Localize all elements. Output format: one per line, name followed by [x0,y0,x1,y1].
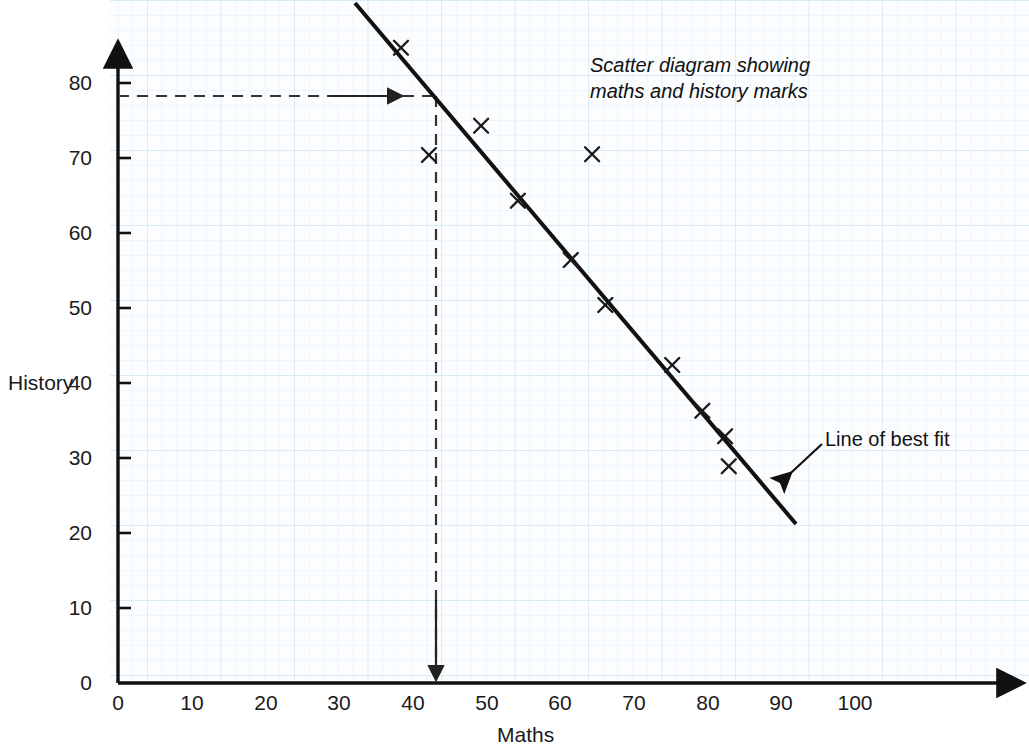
x-tick-label-20: 20 [236,691,296,715]
x-tick-label-70: 70 [604,691,664,715]
x-tick-label-10: 10 [162,691,222,715]
chart-title-line-1: Scatter diagram showing [590,52,810,78]
y-tick-label-50: 50 [32,296,92,320]
line-of-best-fit-label: Line of best fit [825,428,950,451]
x-tick-label-30: 30 [309,691,369,715]
x-tick-label-60: 60 [530,691,590,715]
y-tick-label-60: 60 [32,221,92,245]
y-axis-title: History [8,371,73,395]
x-tick-label-40: 40 [383,691,443,715]
y-tick-label-80: 80 [32,71,92,95]
x-tick-label-50: 50 [457,691,517,715]
grid-background [110,0,1029,683]
chart-title-line-2: maths and history marks [590,78,810,104]
chart-title: Scatter diagram showing maths and histor… [590,52,810,104]
x-tick-label-0: 0 [88,691,148,715]
x-axis-title: Maths [497,723,554,747]
scatter-diagram-figure: 80 70 60 50 40 30 20 10 0 0 10 20 30 40 … [0,0,1029,750]
y-tick-label-70: 70 [32,146,92,170]
graph-canvas [0,0,1029,750]
x-tick-label-90: 90 [751,691,811,715]
y-tick-label-20: 20 [32,521,92,545]
x-tick-label-80: 80 [678,691,738,715]
y-tick-label-10: 10 [32,596,92,620]
y-tick-label-0: 0 [32,671,92,695]
y-tick-label-30: 30 [32,446,92,470]
x-tick-label-100: 100 [825,691,885,715]
